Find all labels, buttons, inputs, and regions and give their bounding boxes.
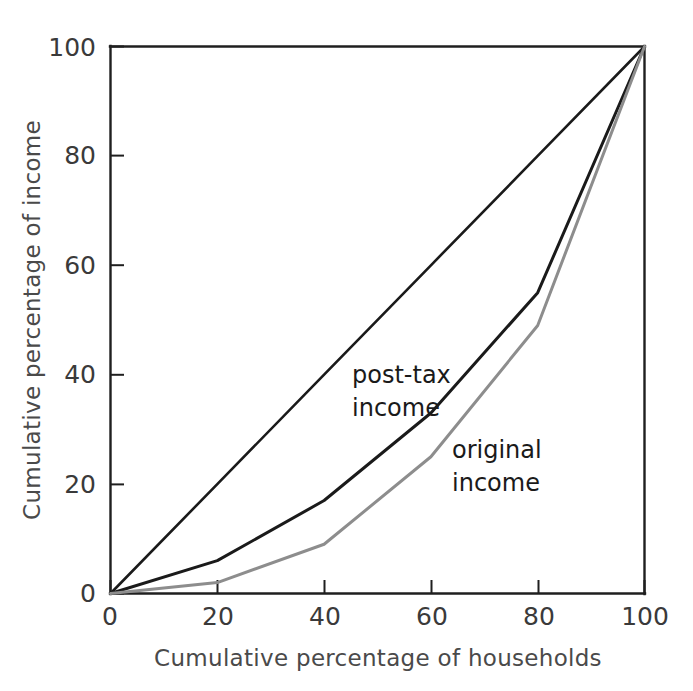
y-tick-label-0: 0: [80, 579, 96, 608]
y-tick-label-20: 20: [64, 470, 96, 499]
original-income-label-line1: original: [452, 436, 542, 464]
post-tax-income-annotation: post-tax income: [352, 361, 451, 422]
x-tick-label-100: 100: [621, 602, 669, 631]
y-tick-label-60: 60: [64, 251, 96, 280]
lorenz-curve-chart: 0 20 40 60 80 100 0 20 40 60 80 100 post…: [0, 0, 693, 691]
y-axis-title: Cumulative percentage of income: [19, 120, 45, 520]
x-axis-ticks: [111, 580, 645, 594]
chart-canvas: 0 20 40 60 80 100 0 20 40 60 80 100 post…: [0, 0, 693, 691]
x-tick-label-80: 80: [523, 602, 555, 631]
y-axis-tick-labels: 0 20 40 60 80 100: [48, 33, 96, 608]
x-tick-label-20: 20: [202, 602, 234, 631]
x-tick-label-40: 40: [309, 602, 341, 631]
original-income-annotation: original income: [452, 436, 542, 497]
post-tax-income-label-line1: post-tax: [352, 361, 451, 389]
x-axis-tick-labels: 0 20 40 60 80 100: [102, 602, 669, 631]
y-tick-label-40: 40: [64, 360, 96, 389]
x-axis-title: Cumulative percentage of households: [154, 645, 602, 671]
y-tick-label-100: 100: [48, 33, 96, 62]
x-tick-label-0: 0: [102, 602, 118, 631]
series-line-of-equality: [111, 47, 645, 594]
x-tick-label-60: 60: [416, 602, 448, 631]
y-axis-ticks: [110, 47, 124, 594]
original-income-label-line2: income: [452, 469, 540, 497]
y-tick-label-80: 80: [64, 141, 96, 170]
post-tax-income-label-line2: income: [352, 394, 440, 422]
